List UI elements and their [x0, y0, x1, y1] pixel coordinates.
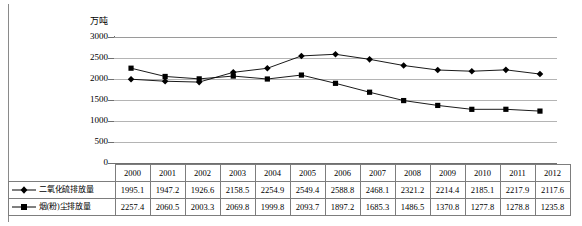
- legend-label-dust: 烟(粉)尘排放量: [39, 202, 91, 212]
- series-group: [128, 51, 544, 114]
- table-col-header-year: 2006: [325, 165, 360, 182]
- chart-page: 万吨 3000 2500 2000 1500 1000 500 0: [0, 0, 582, 226]
- table-header-row: 2000 2001 2002 2003 2004 2005 2006 2007 …: [9, 165, 571, 182]
- table-cell-value: 1486.5: [395, 199, 430, 216]
- data-point-square: [231, 73, 236, 78]
- series-dust: [128, 66, 542, 114]
- table-cell-value: 2549.4: [290, 182, 325, 199]
- data-point-square: [265, 76, 270, 81]
- legend-row-dust: 烟(粉)尘排放量: [9, 199, 116, 216]
- table-col-header-year: 2011: [500, 165, 535, 182]
- table-cell-value: 2185.1: [465, 182, 500, 199]
- table-cell-value: 2254.9: [255, 182, 290, 199]
- table-row: 二氧化硫排放量 1995.1 1947.2 1926.6 2158.5 2254…: [9, 182, 571, 199]
- table-cell-value: 1277.8: [465, 199, 500, 216]
- table-col-header-year: 2002: [185, 165, 220, 182]
- y-axis-unit-label: 万吨: [90, 14, 108, 27]
- y-tick-label: 3000: [72, 32, 108, 41]
- data-point-square: [299, 72, 304, 77]
- table-col-header-year: 2010: [465, 165, 500, 182]
- table-cell-value: 2003.3: [185, 199, 220, 216]
- data-point-diamond: [469, 68, 476, 75]
- table-col-header-year: 2005: [290, 165, 325, 182]
- square-marker-icon: [11, 202, 37, 212]
- table-cell-value: 1947.2: [150, 182, 185, 199]
- data-point-square: [367, 90, 372, 95]
- table-cell-value: 1897.2: [325, 199, 360, 216]
- table-cell-value: 2117.6: [535, 182, 570, 199]
- y-tick-label: 1000: [72, 116, 108, 125]
- data-point-diamond: [434, 67, 441, 74]
- table-cell-value: 1926.6: [185, 182, 220, 199]
- data-table-wrapper: 2000 2001 2002 2003 2004 2005 2006 2007 …: [8, 164, 557, 216]
- table-cell-value: 1370.8: [430, 199, 465, 216]
- table-col-header-year: 2007: [360, 165, 395, 182]
- line-chart: 万吨 3000 2500 2000 1500 1000 500 0: [0, 0, 582, 166]
- table-col-header-year: 2000: [115, 165, 150, 182]
- table-cell-value: 2060.5: [150, 199, 185, 216]
- data-point-diamond: [366, 56, 373, 63]
- legend-label-so2: 二氧化硫排放量: [39, 185, 94, 195]
- table-cell-value: 2158.5: [220, 182, 255, 199]
- data-point-diamond: [537, 71, 544, 78]
- data-point-square: [163, 74, 168, 79]
- data-point-diamond: [400, 62, 407, 69]
- y-tick-label: 1500: [72, 95, 108, 104]
- table-cell-value: 2069.8: [220, 199, 255, 216]
- data-point-square: [401, 98, 406, 103]
- table-col-header-year: 2012: [535, 165, 570, 182]
- table-head: 2000 2001 2002 2003 2004 2005 2006 2007 …: [9, 165, 571, 182]
- y-tick-label: 2500: [72, 53, 108, 62]
- table-cell-value: 2214.4: [430, 182, 465, 199]
- table-cell-value: 1999.8: [255, 199, 290, 216]
- plot-area: [114, 37, 557, 163]
- data-table: 2000 2001 2002 2003 2004 2005 2006 2007 …: [8, 164, 571, 216]
- table-cell-value: 2468.1: [360, 182, 395, 199]
- table-cell-value: 1685.3: [360, 199, 395, 216]
- table-col-header-year: 2004: [255, 165, 290, 182]
- data-point-square: [333, 81, 338, 86]
- table-col-header-year: 2001: [150, 165, 185, 182]
- series-so2: [128, 51, 544, 85]
- data-point-square: [435, 103, 440, 108]
- data-point-diamond: [128, 76, 135, 83]
- diamond-marker-icon: [11, 185, 37, 195]
- data-point-diamond: [264, 65, 271, 72]
- data-point-square: [503, 107, 508, 112]
- series-layer: [114, 37, 557, 163]
- table-cell-value: 1278.8: [500, 199, 535, 216]
- data-point-square: [469, 107, 474, 112]
- table-col-header-year: 2008: [395, 165, 430, 182]
- y-tick-label: 500: [72, 137, 108, 146]
- data-point-diamond: [332, 51, 339, 58]
- table-cell-value: 2257.4: [115, 199, 150, 216]
- data-point-diamond: [503, 67, 510, 74]
- legend-row-so2: 二氧化硫排放量: [9, 182, 116, 199]
- table-cell-value: 2588.8: [325, 182, 360, 199]
- table-body: 二氧化硫排放量 1995.1 1947.2 1926.6 2158.5 2254…: [9, 182, 571, 216]
- series-line: [131, 68, 540, 111]
- table-corner-cell: [9, 165, 116, 182]
- series-line: [131, 54, 540, 82]
- table-cell-value: 2093.7: [290, 199, 325, 216]
- table-cell-value: 1235.8: [535, 199, 570, 216]
- table-col-header-year: 2003: [220, 165, 255, 182]
- data-point-square: [537, 109, 542, 114]
- table-row: 烟(粉)尘排放量 2257.4 2060.5 2003.3 2069.8 199…: [9, 199, 571, 216]
- y-tick-label: 2000: [72, 74, 108, 83]
- data-point-diamond: [298, 53, 305, 60]
- table-cell-value: 2321.2: [395, 182, 430, 199]
- table-col-header-year: 2009: [430, 165, 465, 182]
- table-cell-value: 2217.9: [500, 182, 535, 199]
- table-cell-value: 1995.1: [115, 182, 150, 199]
- data-point-square: [128, 66, 133, 71]
- data-point-square: [197, 76, 202, 81]
